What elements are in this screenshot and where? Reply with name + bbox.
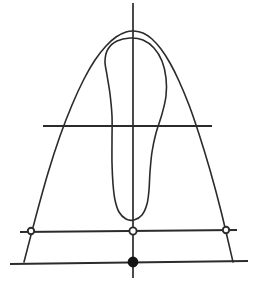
inner-loop-curve	[105, 38, 167, 220]
outer-parabola-curve	[24, 31, 233, 262]
markers-group	[28, 227, 229, 267]
left-open-marker	[28, 228, 34, 234]
curves-group	[24, 31, 233, 262]
center-filled-marker	[128, 257, 137, 266]
geometry-diagram	[0, 0, 263, 296]
right-open-marker	[223, 227, 229, 233]
center-open-marker	[129, 227, 136, 234]
chords-group	[10, 126, 248, 264]
figure-canvas	[0, 0, 263, 296]
